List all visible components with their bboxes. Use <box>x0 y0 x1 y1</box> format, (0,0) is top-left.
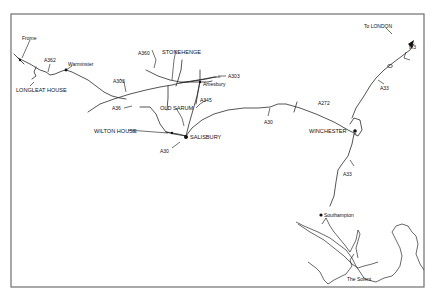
southampton-marker <box>319 213 322 216</box>
road-longleat-spur <box>32 67 36 79</box>
label-a33-north: A33 <box>380 85 389 91</box>
label-to-london: To LONDON <box>364 23 392 29</box>
label-stonehenge: STONEHENGE <box>162 49 201 55</box>
label-a33-south: A33 <box>343 171 352 177</box>
label-a360: A360 <box>138 50 150 56</box>
label-old-sarum: OLD SARUM <box>160 105 194 111</box>
wilton-marker <box>171 132 173 134</box>
road-frome-stub <box>14 54 24 64</box>
label-a362: A362 <box>44 57 56 63</box>
label-frome: Frome <box>22 35 37 41</box>
winchester-marker <box>353 129 357 133</box>
label-warminster: Warminster <box>68 61 94 67</box>
label-amesbury: Amesbury <box>203 81 226 87</box>
label-m3: M3 <box>409 44 416 50</box>
label-the-solent: The Solent <box>347 276 372 282</box>
label-a303-east: A303 <box>228 73 240 79</box>
label-a303-west: A303 <box>113 78 125 84</box>
label-a30-south: A30 <box>160 148 169 154</box>
map-frame <box>11 14 424 287</box>
frome-marker <box>19 59 21 61</box>
label-a345: A345 <box>200 97 212 103</box>
label-wilton-house: WILTON HOUSE <box>94 128 137 134</box>
label-a36: A36 <box>112 105 121 111</box>
label-longleat-house: LONGLEAT HOUSE <box>16 87 67 93</box>
coastline-southampton-water <box>296 222 424 282</box>
label-winchester: WINCHESTER <box>309 128 347 134</box>
label-a272: A272 <box>318 100 330 106</box>
road-a33-south <box>330 134 354 206</box>
label-a30-east: A30 <box>264 119 273 125</box>
route-map: Frome A362 Warminster LONGLEAT HOUSE A36… <box>0 0 435 301</box>
road-a30-sw <box>166 132 186 136</box>
coastline-north-shore <box>298 224 378 268</box>
coastline-estuary <box>322 218 360 258</box>
salisbury-marker <box>184 135 188 139</box>
road-winchester-loop <box>350 118 362 136</box>
label-southampton: Southampton <box>324 212 354 218</box>
amesbury-marker <box>199 81 201 83</box>
label-salisbury: SALISBURY <box>190 134 222 140</box>
